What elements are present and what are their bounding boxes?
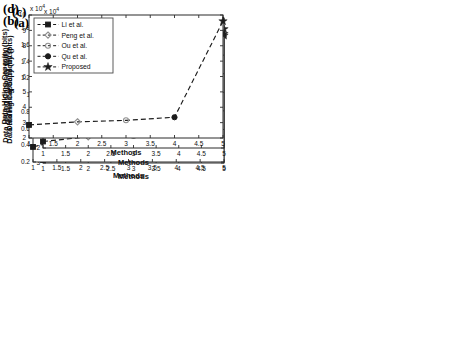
- filled-circle-marker-icon: [45, 54, 50, 59]
- square-marker-icon: [27, 123, 32, 128]
- y-tick-label: 8: [22, 42, 26, 49]
- subplot-d: 11.522.533.544.552345678910x 104Li et al…: [0, 0, 229, 181]
- y-tick-label: 5: [22, 88, 26, 95]
- x-tick-label: 2.5: [97, 140, 106, 147]
- x-tick-label: 1.5: [49, 140, 58, 147]
- axis-scale-label: x 104: [30, 3, 45, 12]
- x-tick-label: 2: [76, 140, 80, 147]
- x-tick-label: 4.5: [194, 140, 203, 147]
- figure-panel: 11.522.533.544.553456789101112x 104Li et…: [0, 0, 458, 362]
- square-marker-icon: [46, 22, 51, 27]
- x-tick-label: 3.5: [146, 140, 155, 147]
- legend-label: Ou et al.: [62, 42, 88, 49]
- legend-label: Qu et al.: [62, 53, 88, 61]
- filled-circle-marker-icon: [172, 115, 177, 120]
- x-tick-label: 5: [221, 140, 225, 147]
- panel-label: (d): [3, 1, 19, 16]
- y-tick-label: 7: [22, 57, 26, 64]
- legend-label: Proposed: [62, 63, 91, 71]
- y-tick-label: 9: [22, 27, 26, 34]
- y-tick-label: 10: [19, 11, 27, 18]
- y-axis-label: Data Hiding Capacity (bits): [0, 28, 9, 124]
- y-tick-label: 2: [22, 134, 26, 141]
- x-axis-label: Methods: [111, 148, 142, 157]
- x-tick-label: 3: [124, 140, 128, 147]
- y-tick-label: 6: [22, 73, 26, 80]
- x-tick-label: 1: [27, 140, 31, 147]
- x-tick-label: 4: [173, 140, 177, 147]
- y-tick-label: 3: [22, 119, 26, 126]
- legend: Li et al.Peng et al.Ou et al.Qu et al.Pr…: [34, 18, 113, 73]
- legend-label: Li et al.: [62, 21, 84, 28]
- legend-label: Peng et al.: [62, 32, 95, 40]
- y-tick-label: 4: [22, 103, 26, 110]
